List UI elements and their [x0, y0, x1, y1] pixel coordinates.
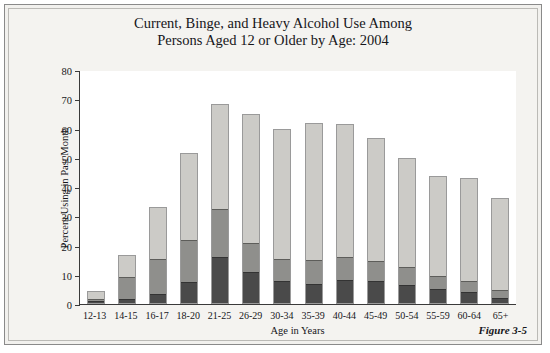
bar-segment-binge-use [399, 267, 415, 285]
bar-segment-heavy-use [399, 285, 415, 303]
bar-segment-binge-use [274, 259, 290, 282]
bar-segment-heavy-use [337, 280, 353, 303]
bar-segment-current-use [306, 124, 322, 260]
x-axis-ticks: 12-1314-1516-1718-2021-2526-2930-3435-39… [79, 310, 516, 324]
bar-segment-binge-use [306, 260, 322, 284]
bar-slot [173, 71, 204, 304]
x-axis-tick-label: 55-59 [422, 310, 453, 321]
stacked-bar[interactable] [429, 176, 447, 304]
bar-segment-heavy-use [88, 301, 104, 303]
bar-segment-current-use [461, 179, 477, 281]
stacked-bar[interactable] [273, 129, 291, 304]
stacked-bar[interactable] [398, 158, 416, 304]
bar-segment-current-use [430, 177, 446, 276]
y-axis-tick-label: 0 [46, 300, 72, 311]
stacked-bar[interactable] [118, 255, 136, 304]
x-axis-label: Age in Years [79, 325, 516, 336]
bar-slot [329, 71, 360, 304]
bar-segment-heavy-use [306, 284, 322, 303]
stacked-bar[interactable] [491, 198, 509, 304]
x-axis-tick-label: 50-54 [391, 310, 422, 321]
stacked-bar[interactable] [242, 114, 260, 304]
x-axis-tick-label: 21-25 [204, 310, 235, 321]
stacked-bar[interactable] [149, 207, 167, 304]
stacked-bar[interactable] [336, 124, 354, 304]
x-tick-slot: 18-20 [173, 310, 204, 324]
bar-slot [111, 71, 142, 304]
x-tick-slot: 12-13 [79, 310, 110, 324]
y-axis-tick-label: 40 [46, 183, 72, 194]
bar-segment-binge-use [337, 257, 353, 280]
x-axis-tick-label: 26-29 [235, 310, 266, 321]
bar-segment-binge-use [150, 259, 166, 294]
bar-slot [236, 71, 267, 304]
y-axis-tick-label: 50 [46, 153, 72, 164]
x-axis-tick-label: 60-64 [454, 310, 485, 321]
bar-segment-current-use [368, 139, 384, 261]
x-tick-slot: 40-44 [329, 310, 360, 324]
bar-slot [142, 71, 173, 304]
bar-segment-current-use [274, 130, 290, 259]
bar-series-container [80, 71, 516, 304]
bar-segment-binge-use [212, 209, 228, 257]
bar-segment-heavy-use [461, 292, 477, 303]
x-tick-slot: 16-17 [141, 310, 172, 324]
bar-segment-current-use [181, 154, 197, 241]
chart-title-line-1: Current, Binge, and Heavy Alcohol Use Am… [5, 15, 541, 32]
bar-slot [205, 71, 236, 304]
bar-segment-binge-use [368, 261, 384, 281]
x-tick-slot: 21-25 [204, 310, 235, 324]
x-axis-tick-label: 16-17 [141, 310, 172, 321]
bar-segment-heavy-use [119, 299, 135, 303]
bar-segment-current-use [119, 256, 135, 277]
y-axis-tick-mark [75, 305, 80, 306]
bar-segment-current-use [212, 105, 228, 209]
figure-frame: Current, Binge, and Heavy Alcohol Use Am… [4, 4, 542, 345]
bar-segment-binge-use [461, 281, 477, 292]
bar-slot [267, 71, 298, 304]
chart-title-line-2: Persons Aged 12 or Older by Age: 2004 [5, 32, 541, 49]
x-tick-slot: 14-15 [110, 310, 141, 324]
bar-slot [360, 71, 391, 304]
bar-segment-current-use [150, 208, 166, 258]
x-tick-slot: 30-34 [266, 310, 297, 324]
plot-area: Percent Using in Past Month 010203040506… [79, 71, 516, 305]
y-axis-tick-label: 20 [46, 241, 72, 252]
y-axis-tick-label: 30 [46, 212, 72, 223]
x-axis-tick-label: 40-44 [329, 310, 360, 321]
bar-slot [454, 71, 485, 304]
x-axis-tick-label: 14-15 [110, 310, 141, 321]
x-axis-tick-label: 12-13 [79, 310, 110, 321]
x-axis-tick-label: 30-34 [266, 310, 297, 321]
x-axis-tick-label: 45-49 [360, 310, 391, 321]
x-axis-tick-label: 35-39 [298, 310, 329, 321]
figure-caption: Figure 3-5 [478, 324, 527, 336]
bar-slot [423, 71, 454, 304]
stacked-bar[interactable] [180, 153, 198, 305]
x-tick-slot: 60-64 [454, 310, 485, 324]
y-axis-tick-label: 80 [46, 66, 72, 77]
stacked-bar[interactable] [305, 123, 323, 304]
y-axis-tick-label: 60 [46, 124, 72, 135]
bar-segment-heavy-use [492, 298, 508, 303]
x-axis-tick-label: 65+ [485, 310, 516, 321]
y-axis-tick-label: 10 [46, 270, 72, 281]
bar-slot [391, 71, 422, 304]
bar-slot [298, 71, 329, 304]
chart-title: Current, Binge, and Heavy Alcohol Use Am… [5, 15, 541, 49]
bar-segment-heavy-use [274, 281, 290, 303]
bar-segment-binge-use [181, 240, 197, 282]
bar-segment-heavy-use [212, 257, 228, 303]
bar-segment-current-use [492, 199, 508, 291]
x-axis-tick-label: 18-20 [173, 310, 204, 321]
stacked-bar[interactable] [460, 178, 478, 304]
stacked-bar[interactable] [87, 291, 105, 304]
x-tick-slot: 55-59 [422, 310, 453, 324]
bar-slot [80, 71, 111, 304]
bar-segment-current-use [399, 159, 415, 266]
stacked-bar[interactable] [367, 138, 385, 304]
bar-segment-heavy-use [368, 281, 384, 303]
bar-segment-heavy-use [243, 272, 259, 303]
stacked-bar[interactable] [211, 104, 229, 304]
bar-segment-binge-use [430, 276, 446, 289]
